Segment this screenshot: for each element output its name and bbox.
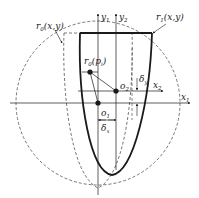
r0-leader-line (55, 30, 62, 43)
label-r0: r0(x,y) (36, 21, 64, 32)
point-pi (87, 69, 92, 74)
label-y2: y2 (118, 12, 128, 23)
label-r1: r1(x,y) (156, 12, 184, 23)
label-r0-pi: r0(pi) (84, 56, 107, 67)
r1-leader-line (153, 24, 166, 33)
label-o2: o2 (120, 81, 129, 92)
point-o1 (95, 100, 100, 105)
label-delta-y: δy (139, 74, 148, 86)
label-x1: x1 (181, 92, 190, 103)
label-x2: x2 (153, 80, 162, 91)
label-delta-x: δx (101, 123, 110, 134)
diagram-svg: r0(x,y) r1(x,y) r0(pi) y1 y2 x1 x2 o2 o1… (0, 0, 199, 198)
label-y1: y1 (100, 12, 110, 23)
label-o1: o1 (101, 108, 110, 119)
diagram-canvas: r0(x,y) r1(x,y) r0(pi) y1 y2 x1 x2 o2 o1… (0, 0, 199, 198)
point-o2 (113, 88, 118, 93)
